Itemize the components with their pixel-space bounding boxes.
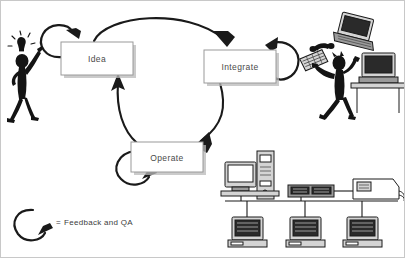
legend-feedback-loop-icon [14,210,53,240]
process-cycle-diagram: Idea Integrate Operate [1,1,405,258]
legend: = Feedback and QA [14,210,133,240]
printer-icon [353,179,404,201]
diagram-canvas: Idea Integrate Operate [0,0,405,258]
flying-monitor-icon [332,11,381,51]
legend-equals-sign: = [56,218,61,227]
process-node-operate[interactable]: Operate [131,142,206,175]
client-computer-1-icon [228,201,267,247]
process-node-idea-label: Idea [88,54,106,64]
process-node-operate-label: Operate [150,153,184,163]
client-computer-2-icon [286,201,325,247]
flying-keyboard-icon [299,49,328,71]
frustrated-stick-figure-icon [299,11,405,120]
computer-network-icon [221,151,404,247]
process-node-integrate-label: Integrate [221,62,258,72]
network-hub-icon [288,185,334,197]
process-node-integrate[interactable]: Integrate [204,50,279,86]
connector-operate-to-idea [111,73,137,143]
process-node-idea[interactable]: Idea [61,42,136,78]
desk-computer-icon [351,53,405,113]
legend-text: Feedback and QA [64,218,133,227]
client-computer-3-icon [343,201,382,247]
stick-figure-with-lightbulb-icon [7,31,43,123]
